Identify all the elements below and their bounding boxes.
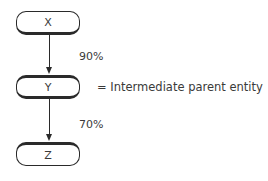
node-x: X bbox=[16, 11, 80, 35]
arrow-down-icon bbox=[46, 67, 52, 74]
edge-y-z-percentage: 70% bbox=[79, 118, 103, 131]
node-z: Z bbox=[16, 142, 80, 166]
edge-y-z-line bbox=[49, 99, 50, 135]
arrow-down-icon bbox=[46, 134, 52, 141]
node-y: Y bbox=[16, 75, 80, 99]
node-y-label: Y bbox=[45, 81, 52, 94]
node-z-label: Z bbox=[44, 149, 52, 162]
node-x-label: X bbox=[44, 16, 52, 29]
intermediate-parent-legend: = Intermediate parent entity bbox=[97, 80, 263, 94]
edge-x-y-line bbox=[49, 35, 50, 68]
edge-x-y-percentage: 90% bbox=[79, 50, 103, 63]
